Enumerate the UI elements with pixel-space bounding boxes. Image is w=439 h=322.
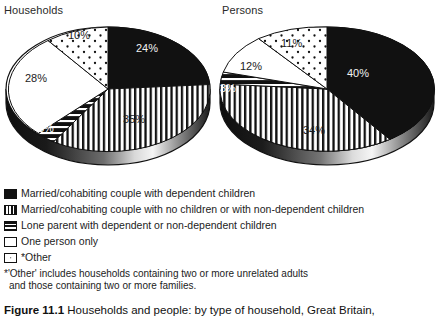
persons-pie-svg bbox=[218, 16, 436, 168]
figure-pie-charts: Households bbox=[0, 0, 439, 322]
vertical-stripe-swatch-icon bbox=[4, 205, 17, 215]
legend-item-lone-parent: Lone parent with dependent or non-depend… bbox=[4, 218, 436, 233]
households-pie-chart bbox=[4, 16, 212, 168]
households-chart-title: Households bbox=[4, 4, 63, 16]
legend-label-married-dependent: Married/cohabiting couple with dependent… bbox=[21, 188, 255, 199]
solid-black-swatch-icon bbox=[4, 189, 17, 199]
chart-legend: Married/cohabiting couple with dependent… bbox=[4, 186, 436, 266]
legend-item-married-no-dependent: Married/cohabiting couple with no childr… bbox=[4, 202, 436, 217]
figure-caption-text: Households and people: by type of househ… bbox=[67, 304, 375, 316]
legend-label-other: *Other bbox=[21, 252, 51, 263]
legend-label-married-no-dependent: Married/cohabiting couple with no childr… bbox=[21, 204, 364, 215]
figure-caption: Figure 11.1 Households and people: by ty… bbox=[4, 303, 436, 317]
figure-caption-label: Figure 11.1 bbox=[4, 304, 64, 316]
footnote-line-1: *'Other' includes households containing … bbox=[4, 268, 308, 279]
footnote-line-2: and those containing two or more familie… bbox=[4, 280, 424, 292]
persons-chart-title: Persons bbox=[222, 4, 263, 16]
legend-item-one-person: One person only bbox=[4, 234, 436, 249]
legend-item-married-dependent: Married/cohabiting couple with dependent… bbox=[4, 186, 436, 201]
white-swatch-icon bbox=[4, 237, 17, 247]
legend-label-lone-parent: Lone parent with dependent or non-depend… bbox=[21, 220, 277, 231]
dotted-swatch-icon bbox=[4, 253, 17, 263]
legend-item-other: *Other bbox=[4, 250, 436, 265]
footnote: *'Other' includes households containing … bbox=[4, 268, 424, 291]
persons-pie-chart bbox=[218, 16, 436, 168]
households-pie-svg bbox=[4, 16, 212, 168]
legend-label-one-person: One person only bbox=[21, 236, 98, 247]
households-slice-married-dependent bbox=[108, 27, 210, 89]
horizontal-stripe-swatch-icon bbox=[4, 221, 17, 231]
